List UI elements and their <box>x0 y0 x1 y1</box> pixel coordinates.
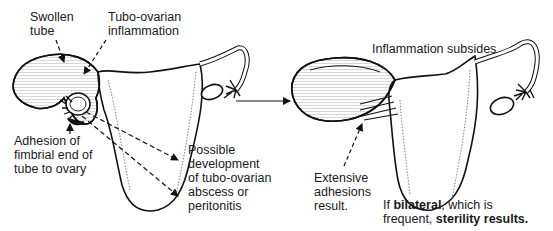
label-adhesion-fimbrial: Adhesion of fimbrial end of tube to ovar… <box>14 134 93 176</box>
diagram-canvas: Swollen tube Tubo-ovarian inflammation A… <box>0 0 553 231</box>
text-bilateral: bilateral <box>393 198 441 212</box>
text-sterility-results: sterility results. <box>436 212 528 226</box>
text-if: If <box>383 198 393 212</box>
illustration <box>0 0 553 231</box>
label-possible-development: Possible development of tubo-ovarian abs… <box>188 143 271 213</box>
label-extensive-adhesions: Extensive adhesions result. <box>314 171 371 213</box>
text-which-is: , which is <box>441 198 492 212</box>
label-tubo-ovarian-inflammation: Tubo-ovarian inflammation <box>108 10 181 38</box>
adhesions-pointer <box>344 124 362 166</box>
label-bilateral-sterility: If bilateral, which isfrequent, sterilit… <box>383 198 528 226</box>
text-frequent: frequent, <box>383 212 436 226</box>
label-inflammation-subsides: Inflammation subsides <box>372 42 496 56</box>
label-swollen-tube: Swollen tube <box>30 10 74 38</box>
